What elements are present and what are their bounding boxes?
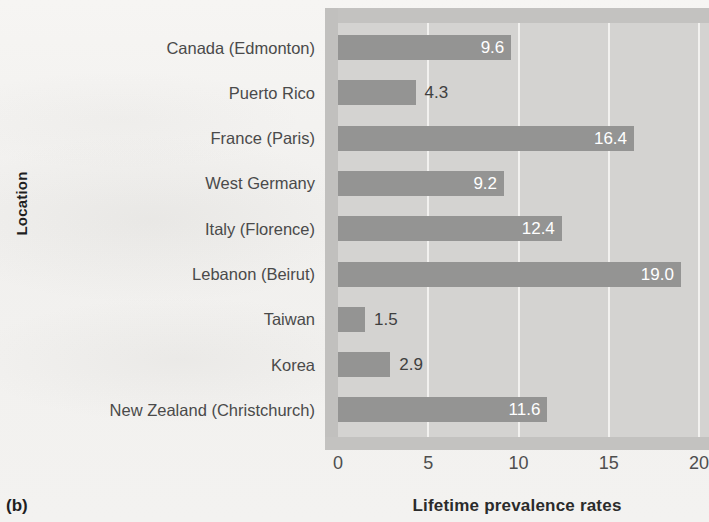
bar-value-label: 2.9 (399, 352, 423, 377)
gridline-15 (608, 23, 610, 437)
plot-left-band (325, 8, 338, 450)
plot-bottom-band (325, 437, 709, 450)
category-label: Italy (Florence) (205, 219, 315, 239)
category-label: Puerto Rico (229, 83, 315, 103)
bar: 12.4 (338, 216, 562, 241)
category-label: Lebanon (Beirut) (192, 264, 315, 284)
bar (338, 352, 390, 377)
bar: 9.6 (338, 35, 511, 60)
bar-value-label: 11.6 (509, 397, 541, 422)
bar-value-label: 9.2 (473, 171, 497, 196)
bar-value-label: 9.6 (481, 35, 505, 60)
bar: 11.6 (338, 397, 547, 422)
category-label: Taiwan (264, 309, 315, 329)
x-tick-label-0: 0 (318, 452, 358, 474)
gridline-20 (698, 23, 700, 437)
category-label: Canada (Edmonton) (166, 38, 315, 58)
y-axis-title: Location (13, 149, 30, 259)
bar-value-label: 16.4 (594, 126, 627, 151)
bar-value-label: 1.5 (374, 307, 398, 332)
category-label: West Germany (205, 173, 315, 193)
plot-top-band (325, 8, 709, 23)
category-label: Korea (271, 355, 315, 375)
bar: 19.0 (338, 262, 681, 287)
bar-chart-figure: Location Canada (Edmonton)Puerto RicoFra… (0, 0, 709, 522)
category-label: New Zealand (Christchurch) (110, 400, 315, 420)
bar-value-label: 4.3 (425, 80, 449, 105)
bar-value-label: 19.0 (641, 262, 674, 287)
bar: 16.4 (338, 126, 634, 151)
bar (338, 307, 365, 332)
x-axis-title: Lifetime prevalence rates (325, 496, 709, 516)
x-tick-label-20: 20 (679, 452, 709, 474)
bar: 9.2 (338, 171, 504, 196)
plot-area: 9.64.316.49.212.419.01.52.911.6 (325, 8, 709, 450)
x-tick-label-15: 15 (589, 452, 629, 474)
category-label: France (Paris) (210, 128, 315, 148)
bar-value-label: 12.4 (522, 216, 555, 241)
bar (338, 80, 416, 105)
x-tick-label-10: 10 (499, 452, 539, 474)
x-tick-label-5: 5 (408, 452, 448, 474)
panel-label: (b) (6, 496, 28, 516)
